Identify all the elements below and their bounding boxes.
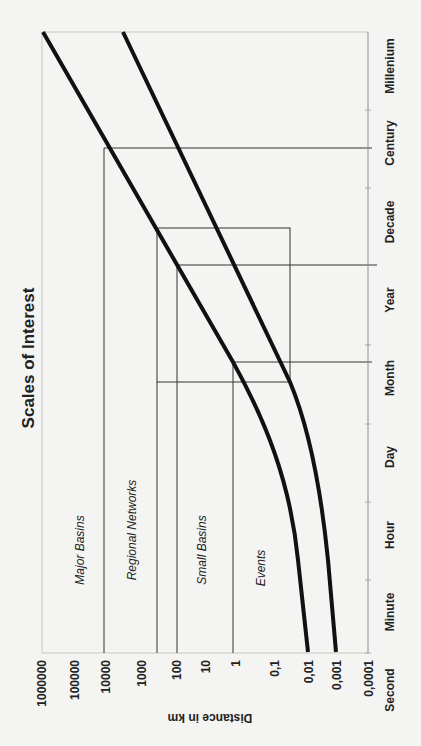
time-label-decade: Decade bbox=[383, 200, 397, 243]
region-label-events: Events bbox=[254, 550, 268, 587]
tick-0-1: 0,1 bbox=[268, 660, 282, 677]
curve-lower bbox=[123, 32, 336, 652]
region-label-regional-networks: Regional Networks bbox=[125, 480, 139, 581]
tick-1000: 1000 bbox=[135, 660, 149, 687]
time-label-second: Second bbox=[383, 668, 397, 711]
tick-10000: 10000 bbox=[99, 660, 113, 694]
time-label-hour: Hour bbox=[383, 521, 397, 549]
tick-100: 100 bbox=[170, 660, 184, 680]
time-label-millenium: Millenium bbox=[383, 38, 397, 93]
tick-0-01: 0,01 bbox=[302, 660, 316, 684]
scales-of-interest-chart: Millenium Century Decade Year Month Day … bbox=[0, 0, 421, 746]
region-label-major-basins: Major Basins bbox=[73, 515, 87, 584]
time-label-century: Century bbox=[383, 120, 397, 166]
tick-100000: 100000 bbox=[68, 660, 82, 700]
time-label-minute: Minute bbox=[383, 592, 397, 631]
region-major-basins bbox=[104, 148, 372, 653]
distance-tick-labels: 1000000 100000 10000 1000 100 10 1 0,1 0… bbox=[35, 660, 376, 707]
time-label-year: Year bbox=[383, 287, 397, 313]
time-axis bbox=[365, 32, 371, 653]
tick-1: 1 bbox=[229, 660, 243, 667]
region-label-small-basins: Small Basins bbox=[195, 515, 209, 584]
tick-0-001: 0,001 bbox=[330, 660, 344, 690]
tick-1000000: 1000000 bbox=[35, 660, 49, 707]
time-labels: Millenium Century Decade Year Month Day … bbox=[383, 38, 397, 711]
chart-title: Scales of Interest bbox=[19, 287, 38, 428]
tick-10: 10 bbox=[199, 660, 213, 674]
time-label-month: Month bbox=[383, 360, 397, 396]
y-axis-title: Distance in km bbox=[168, 711, 253, 725]
time-label-day: Day bbox=[383, 446, 397, 468]
tick-0-0001: 0,0001 bbox=[362, 660, 376, 697]
